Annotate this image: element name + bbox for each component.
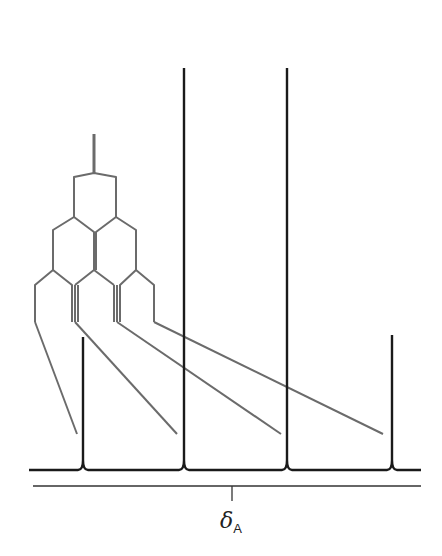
- shift-axis: [33, 486, 421, 501]
- splitting-diagram: [0, 0, 442, 556]
- spectrum-trace: [29, 68, 421, 470]
- splitting-tree: [35, 134, 383, 434]
- spectrum: [29, 68, 421, 470]
- chemical-shift-label: δA: [220, 508, 242, 536]
